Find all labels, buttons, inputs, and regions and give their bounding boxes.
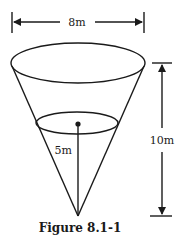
diameter-label: 8m — [68, 16, 86, 29]
height-label: 10m — [150, 134, 175, 147]
water-depth-label: 5m — [55, 144, 73, 157]
height-dimension: 10m — [150, 63, 175, 216]
cone: 5m — [11, 43, 145, 216]
diameter-dimension: 8m — [12, 12, 144, 33]
cone-diagram: 8m 5m 10m Figure 8.1-1 — [0, 0, 180, 239]
cone-top-rim — [11, 43, 145, 83]
cone-right-side — [78, 66, 144, 216]
figure-caption: Figure 8.1-1 — [39, 221, 122, 235]
cone-left-side — [12, 66, 78, 216]
